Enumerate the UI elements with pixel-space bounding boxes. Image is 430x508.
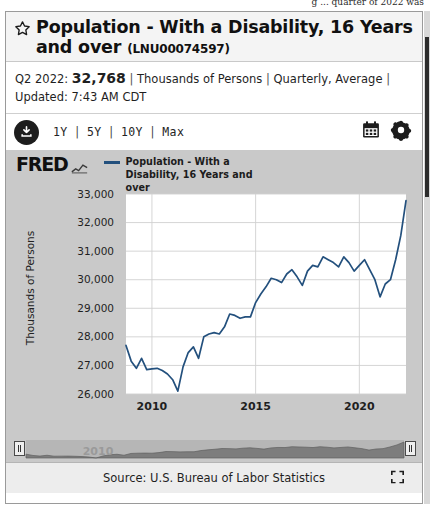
svg-text:26,000: 26,000 [77,388,114,400]
fullscreen-icon[interactable] [391,469,404,488]
svg-text:27,000: 27,000 [77,359,114,371]
svg-text:31,000: 31,000 [77,245,114,257]
plot-area[interactable]: Thousands of Persons 26,00027,00028,0002… [6,186,422,438]
page-background-text: g ... quarter of 2022 was [0,0,430,8]
range-button-1y[interactable]: 1Y [53,125,68,139]
title-row: Population - With a Disability, 16 Years… [14,18,414,57]
range-button-5y[interactable]: 5Y [87,125,102,139]
series-metadata: Q2 2022: 32,768 | Thousands of Persons |… [6,62,422,114]
range-scrubber[interactable]: 2010 [6,438,422,462]
meta-separator-2: | [266,72,270,86]
y-axis-label: Thousands of Persons [24,218,36,358]
page-scrollbar-thumb[interactable] [425,37,429,197]
meta-separator-1: | [130,72,134,86]
svg-text:2010: 2010 [137,400,168,413]
star-icon[interactable] [14,20,31,41]
legend-swatch [104,161,120,164]
range-button-10y[interactable]: 10Y [121,125,143,139]
svg-text:32,000: 32,000 [77,217,114,229]
chart-panel: FRED Population - With a Disability, 16 … [6,150,422,462]
meta-value: 32,768 [72,70,126,86]
svg-text:33,000: 33,000 [77,188,114,200]
range-separator-1: | [74,125,81,139]
source-text: Source: U.S. Bureau of Labor Statistics [103,471,325,485]
toolbar-actions [361,119,412,145]
meta-updated: Updated: 7:43 AM CDT [15,90,146,104]
range-button-max[interactable]: Max [162,125,184,139]
page-scrollbar[interactable] [424,11,430,504]
series-id: (LNU00074597) [127,42,230,56]
svg-text:2015: 2015 [240,400,271,413]
widget-header: Population - With a Disability, 16 Years… [6,12,422,62]
meta-frequency: Quarterly, Average [274,72,383,86]
svg-text:28,000: 28,000 [77,331,114,343]
download-icon[interactable] [14,120,39,145]
fred-squiggle-icon [71,159,88,178]
svg-text:2020: 2020 [344,400,375,413]
svg-text:29,000: 29,000 [77,302,114,314]
chart-svg[interactable]: 26,00027,00028,00029,00030,00031,00032,0… [6,186,422,438]
chart-toolbar: 1Y | 5Y | 10Y | Max [6,114,422,150]
gear-icon[interactable] [390,119,412,145]
svg-text:30,000: 30,000 [77,274,114,286]
fred-chart-widget: Population - With a Disability, 16 Years… [5,11,423,504]
scrubber-left-handle[interactable] [14,441,25,456]
fred-logo: FRED [16,155,68,174]
calendar-icon[interactable] [361,120,381,144]
chart-footer: Source: U.S. Bureau of Labor Statistics [6,462,422,493]
range-separator-3: | [149,125,156,139]
meta-separator-3: | [386,72,390,86]
meta-period: Q2 2022: [15,72,68,86]
scrubber-preview[interactable]: 2010 [6,438,422,462]
page-title: Population - With a Disability, 16 Years… [36,18,414,57]
range-selector: 1Y | 5Y | 10Y | Max [53,125,184,139]
range-separator-2: | [108,125,115,139]
svg-text:2010: 2010 [83,445,114,458]
scrubber-right-handle[interactable] [405,441,416,456]
meta-units: Thousands of Persons [137,72,262,86]
